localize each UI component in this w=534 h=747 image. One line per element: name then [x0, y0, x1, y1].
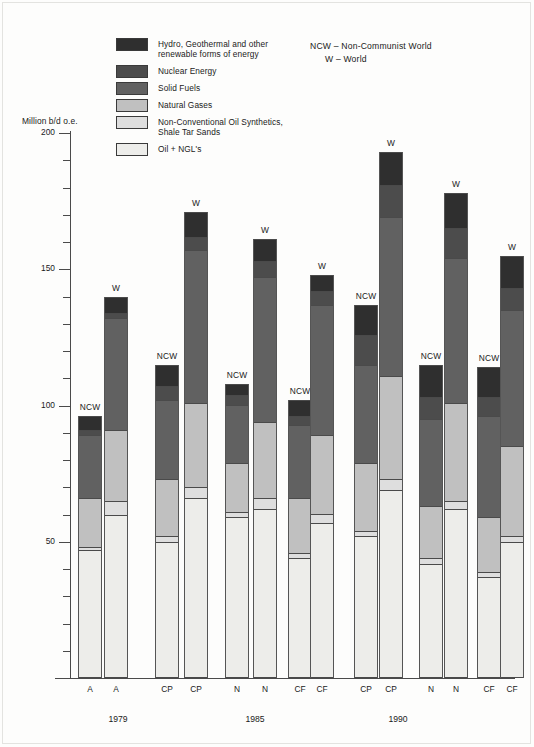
y-tick-120	[63, 351, 70, 352]
bar-segment-gas	[289, 498, 311, 553]
bar-segment-gas	[311, 435, 333, 514]
bar-1990-CP-NCW	[354, 305, 378, 678]
bar-segment-solid	[311, 305, 333, 436]
bar-1990-CF-W	[500, 256, 524, 678]
bar-1979-A-W	[104, 297, 128, 679]
bar-1985-CF-NCW	[288, 400, 312, 678]
bar-segment-nuclear	[289, 416, 311, 424]
bar-segment-hydro	[311, 275, 333, 291]
bar-segment-gas	[79, 498, 101, 547]
chart-canvas: Hydro, Geothermal and other renewable fo…	[0, 0, 534, 747]
y-tick-160	[63, 242, 70, 243]
bar-scope-tag-w: W	[176, 198, 216, 208]
bar-segment-solid	[185, 250, 207, 403]
bar-segment-gas	[105, 430, 127, 501]
bar-segment-nuclear	[445, 228, 467, 258]
y-tick-label-200: 200	[25, 127, 55, 137]
x-tick-label-1985-CF-W: CF	[302, 684, 342, 694]
y-tick-180	[63, 188, 70, 189]
bar-segment-hydro	[501, 256, 523, 289]
bar-segment-noncon	[226, 512, 248, 517]
bar-segment-oil	[226, 517, 248, 678]
bar-segment-hydro	[156, 365, 178, 387]
bar-scope-tag-w: W	[436, 179, 476, 189]
bar-segment-nuclear	[478, 397, 500, 416]
bar-segment-noncon	[289, 553, 311, 558]
x-tick-label-1990-CP-W: CP	[371, 684, 411, 694]
bar-segment-solid	[420, 419, 442, 506]
group-label-1985: 1985	[225, 714, 285, 724]
bar-segment-oil	[289, 558, 311, 678]
bar-segment-hydro	[254, 239, 276, 261]
y-tick-150	[59, 269, 70, 270]
bar-1985-N-W	[253, 239, 277, 678]
y-tick-60	[63, 515, 70, 516]
bar-scope-tag-w: W	[302, 261, 342, 271]
bar-segment-nuclear	[185, 237, 207, 251]
bar-segment-hydro	[380, 152, 402, 185]
bar-segment-noncon	[105, 501, 127, 515]
bar-segment-gas	[445, 403, 467, 501]
bar-segment-nuclear	[311, 291, 333, 305]
y-tick-90	[63, 433, 70, 434]
y-tick-110	[63, 378, 70, 379]
bar-segment-solid	[501, 310, 523, 446]
bar-segment-oil	[254, 509, 276, 678]
y-tick-20	[63, 624, 70, 625]
group-label-1990: 1990	[368, 714, 428, 724]
bar-segment-gas	[420, 506, 442, 558]
bar-1979-A-NCW	[78, 416, 102, 678]
bar-segment-hydro	[478, 367, 500, 397]
bar-segment-hydro	[420, 365, 442, 398]
bar-segment-hydro	[79, 416, 101, 430]
bar-segment-hydro	[226, 384, 248, 395]
bar-segment-oil	[478, 577, 500, 678]
bar-1990-N-W	[444, 193, 468, 678]
y-tick-label-150: 150	[25, 263, 55, 273]
y-tick-10	[63, 651, 70, 652]
bar-segment-gas	[226, 463, 248, 512]
bar-segment-nuclear	[380, 185, 402, 218]
bar-segment-gas	[478, 517, 500, 572]
bar-1990-CF-NCW	[477, 367, 501, 678]
bar-segment-noncon	[185, 487, 207, 498]
x-tick-label-1990-CF-W: CF	[492, 684, 532, 694]
bar-scope-tag-ncw: NCW	[217, 370, 257, 380]
bar-segment-hydro	[355, 305, 377, 335]
bar-segment-oil	[79, 550, 101, 678]
y-tick-30	[63, 596, 70, 597]
bar-segment-gas	[156, 479, 178, 536]
bar-segment-nuclear	[420, 397, 442, 419]
bar-segment-gas	[380, 376, 402, 480]
bar-segment-noncon	[254, 498, 276, 509]
y-tick-50	[59, 542, 70, 543]
bar-segment-solid	[478, 416, 500, 517]
x-tick-label-1979-A-W: A	[96, 684, 136, 694]
bar-segment-noncon	[311, 514, 333, 522]
bar-segment-solid	[79, 435, 101, 498]
bar-segment-hydro	[105, 297, 127, 313]
bar-segment-solid	[156, 400, 178, 479]
x-tick-label-1985-N-W: N	[245, 684, 285, 694]
bar-segment-nuclear	[355, 335, 377, 365]
y-tick-label-50: 50	[25, 536, 55, 546]
bar-segment-nuclear	[105, 313, 127, 318]
bar-segment-noncon	[79, 547, 101, 550]
bar-segment-oil	[355, 536, 377, 678]
bar-scope-tag-w: W	[96, 283, 136, 293]
bar-segment-gas	[185, 403, 207, 487]
x-axis-line	[55, 678, 515, 679]
bar-segment-solid	[105, 318, 127, 430]
bar-segment-solid	[289, 425, 311, 499]
bar-segment-oil	[311, 523, 333, 678]
group-label-1979: 1979	[88, 714, 148, 724]
bar-1985-CP-W	[184, 212, 208, 678]
bar-segment-solid	[355, 365, 377, 463]
bar-segment-noncon	[478, 572, 500, 577]
bar-scope-tag-w: W	[245, 225, 285, 235]
bar-segment-solid	[380, 217, 402, 375]
bar-segment-solid	[254, 277, 276, 421]
y-tick-40	[63, 569, 70, 570]
bar-scope-tag-w: W	[492, 242, 532, 252]
y-tick-label-100: 100	[25, 400, 55, 410]
